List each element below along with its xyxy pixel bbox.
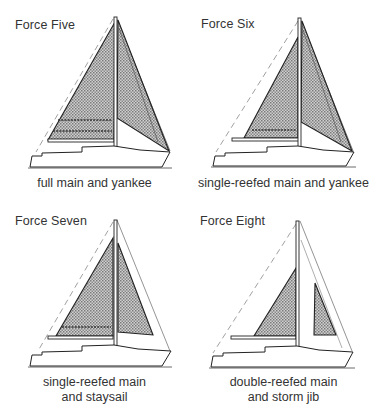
mainsail [56,238,113,336]
panel-caption: single-reefed main and staysail [0,375,189,405]
boom [232,138,299,141]
panel-title: Force Eight [200,214,265,228]
mainsail [48,22,115,140]
panel-caption: single-reefed main and yankee [184,176,378,191]
boom [231,336,296,339]
mast [298,18,301,149]
panel-caption: full main and yankee [0,176,189,191]
hull [30,146,170,167]
mast [114,17,117,150]
hull [30,345,171,366]
storm-jib [314,283,336,335]
mast [114,220,117,349]
panel-force-seven: Force Seven single-reefed main and stays… [0,208,189,416]
panel-title: Force Seven [15,214,87,228]
boom [48,139,114,142]
mainsail [244,37,298,138]
panel-force-six: Force Six single-reefed main and yankee [189,0,378,208]
yankee-sail [117,20,169,151]
boom [48,336,113,339]
mast [296,221,299,350]
staysail [118,243,153,335]
panel-title: Force Six [201,17,255,31]
panel-caption: double-reefed main and storm jib [189,375,378,405]
panel-force-five: Force Five full main and yankee [0,0,189,208]
panel-force-eight: Force Eight double-reefed main and storm… [189,208,378,416]
hull [211,346,353,367]
hull [213,146,354,166]
mainsail [254,268,296,336]
yankee-sail [301,21,352,151]
panel-title: Force Five [15,18,75,32]
